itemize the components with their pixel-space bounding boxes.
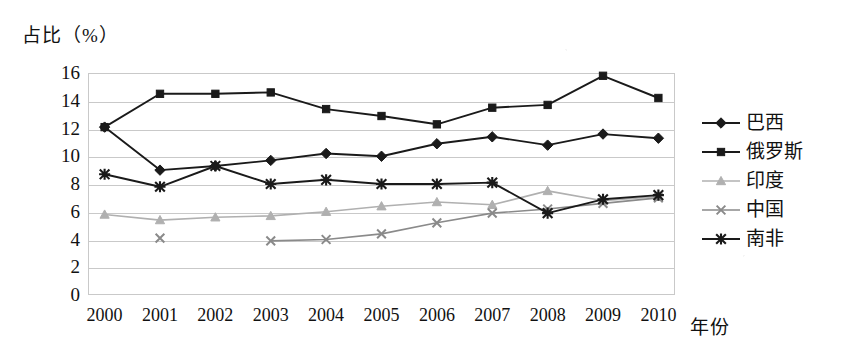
data-point-square <box>212 90 219 97</box>
legend-label: 巴西 <box>742 113 784 132</box>
data-point-star <box>154 181 165 192</box>
data-point-square <box>433 121 440 128</box>
legend-marker-star-icon <box>700 229 742 249</box>
data-point-square <box>156 90 163 97</box>
series-1 <box>101 72 662 131</box>
data-point-diamond <box>432 139 442 149</box>
data-point-diamond <box>716 117 726 127</box>
data-point-square <box>267 89 274 96</box>
data-point-cross <box>156 234 165 243</box>
legend-item[interactable]: 巴西 <box>700 108 840 137</box>
data-point-square <box>489 104 496 111</box>
legend-item[interactable]: 俄罗斯 <box>700 137 840 166</box>
legend-label: 印度 <box>742 171 784 190</box>
data-point-diamond <box>487 132 497 142</box>
legend-marker-square-icon <box>700 142 742 162</box>
legend-item[interactable]: 印度 <box>700 166 840 195</box>
data-point-square <box>599 72 606 79</box>
data-point-square <box>655 94 662 101</box>
data-point-square <box>101 123 108 130</box>
legend-marker-diamond-icon <box>700 113 742 133</box>
legend-item[interactable]: 南非 <box>700 224 840 253</box>
data-point-square <box>322 105 329 112</box>
data-point-star <box>376 178 387 189</box>
data-point-star <box>653 190 664 201</box>
legend-label: 中国 <box>742 200 784 219</box>
data-point-triangle <box>543 186 552 194</box>
line-chart: 占比（%） 年份 0246810121416 20002001200220032… <box>0 0 845 355</box>
data-point-diamond <box>266 155 276 165</box>
data-point-square <box>544 101 551 108</box>
data-point-diamond <box>376 151 386 161</box>
data-point-diamond <box>542 140 552 150</box>
data-point-star <box>431 178 442 189</box>
legend-marker-triangle-icon <box>700 171 742 191</box>
series-3 <box>156 194 663 246</box>
data-point-star <box>210 160 221 171</box>
legend-label: 南非 <box>742 229 784 248</box>
data-point-diamond <box>598 129 608 139</box>
legend-item[interactable]: 中国 <box>700 195 840 224</box>
data-point-star <box>99 169 110 180</box>
legend-marker-cross-icon <box>700 200 742 220</box>
data-point-star <box>542 208 553 219</box>
data-point-diamond <box>653 133 663 143</box>
data-point-star <box>321 174 332 185</box>
data-point-star <box>487 177 498 188</box>
data-point-star <box>715 233 726 244</box>
data-point-star <box>265 178 276 189</box>
legend: 巴西俄罗斯印度中国南非 <box>700 108 840 253</box>
data-point-square <box>717 148 724 155</box>
data-point-square <box>378 112 385 119</box>
series-0 <box>99 122 663 175</box>
legend-label: 俄罗斯 <box>742 142 803 161</box>
data-point-star <box>597 194 608 205</box>
data-point-diamond <box>321 148 331 158</box>
